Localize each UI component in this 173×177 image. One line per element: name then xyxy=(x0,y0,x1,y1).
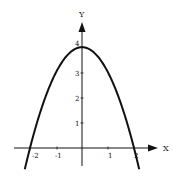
x-tick-label: 1 xyxy=(108,152,112,160)
x-tick-label: -1 xyxy=(55,152,62,160)
x-axis-label: X xyxy=(163,144,169,153)
y-axis-label: Y xyxy=(78,10,85,19)
parabola-chart: X Y -2 -1 1 2 1 2 3 4 xyxy=(0,0,173,177)
x-axis-arrow-icon xyxy=(148,145,158,152)
y-tick-label: 2 xyxy=(75,95,79,103)
y-tick-label: 3 xyxy=(75,70,79,78)
y-axis-arrow-icon xyxy=(79,22,86,32)
y-tick-label: 1 xyxy=(75,120,79,128)
x-tick-label: -2 xyxy=(32,152,39,160)
